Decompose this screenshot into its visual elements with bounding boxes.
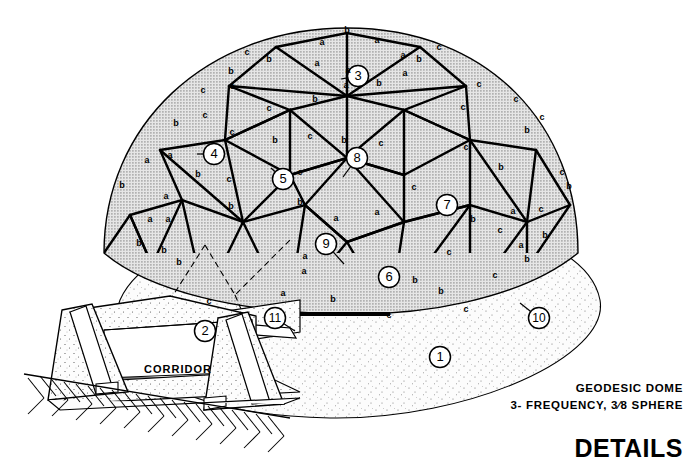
callout-number-4: 4 [210, 146, 217, 161]
strut-label-b: b [312, 94, 318, 104]
strut-label-c: c [538, 204, 543, 214]
strut-label-c: c [559, 167, 564, 177]
strut-label-c: c [297, 167, 302, 177]
callout-number-2: 2 [201, 323, 208, 338]
callout-number-9: 9 [322, 236, 329, 251]
corridor-structure [48, 296, 300, 410]
strut-label-c: c [226, 174, 231, 184]
strut-label-c: c [497, 225, 502, 235]
strut-label-b: b [119, 180, 125, 190]
strut-label-c: c [463, 304, 468, 314]
strut-label-b: b [438, 286, 444, 296]
strut-label-b: b [498, 162, 504, 172]
strut-label-b: b [173, 118, 179, 128]
strut-label-c: c [202, 110, 207, 120]
callout-number-10: 10 [532, 311, 546, 325]
caption-line-2: 3- FREQUENCY, 3⁄8 SPHERE [511, 399, 684, 411]
strut-label-b: b [330, 294, 336, 304]
strut-label-c: c [460, 102, 465, 112]
strut-label-b: b [228, 201, 234, 211]
strut-label-b: b [470, 214, 476, 224]
strut-label-c: c [446, 247, 451, 257]
callout-number-5: 5 [279, 171, 286, 186]
callout-number-3: 3 [354, 68, 361, 83]
page-title: DETAILS [574, 434, 683, 463]
strut-label-b: b [344, 25, 350, 35]
callout-number-11: 11 [269, 311, 282, 325]
caption-line-1: GEODESIC DOME [576, 382, 683, 394]
strut-label-b: b [136, 238, 142, 248]
strut-label-b: b [341, 135, 347, 145]
geodesic-dome-drawing: 1234567891011 bccbaaaabccbaccabcbccbacbc… [0, 0, 693, 476]
strut-label-b: b [524, 254, 530, 264]
strut-label-c: c [229, 81, 234, 91]
strut-label-c: c [386, 310, 391, 320]
strut-label-c: c [378, 138, 383, 148]
corridor-label: CORRIDOR [144, 363, 212, 375]
strut-label-c: c [436, 42, 441, 52]
callout-7[interactable]: 7 [437, 195, 458, 216]
strut-label-b: b [412, 275, 418, 285]
strut-label-b: b [542, 230, 548, 240]
strut-label-c: c [244, 47, 249, 57]
strut-label-b: b [266, 54, 272, 64]
strut-label-b: b [228, 66, 234, 76]
strut-label-c: c [200, 85, 205, 95]
callout-number-7: 7 [443, 197, 450, 212]
callout-1[interactable]: 1 [430, 347, 451, 368]
strut-label-b: b [195, 169, 201, 179]
strut-label-c: c [463, 142, 468, 152]
callout-number-8: 8 [353, 150, 360, 165]
callout-number-1: 1 [436, 349, 443, 364]
strut-label-c: c [266, 103, 271, 113]
strut-label-b: b [376, 78, 382, 88]
strut-label-c: c [513, 94, 518, 104]
callout-6[interactable]: 6 [379, 267, 400, 288]
strut-label-b: b [566, 181, 572, 191]
strut-label-b: b [176, 257, 182, 267]
dome-shell [104, 28, 578, 314]
strut-label-c: c [476, 79, 481, 89]
strut-label-b: b [416, 54, 422, 64]
strut-label-b: b [161, 245, 167, 255]
strut-label-c: c [492, 270, 497, 280]
strut-label-b: b [297, 197, 303, 207]
strut-label-c: c [229, 127, 234, 137]
callout-2[interactable]: 2 [195, 321, 216, 342]
strut-label-c: c [307, 131, 312, 141]
strut-label-c: c [539, 112, 544, 122]
callout-number-6: 6 [385, 269, 392, 284]
strut-label-b: b [524, 125, 530, 135]
strut-label-c: c [411, 182, 416, 192]
strut-label-b: b [272, 135, 278, 145]
strut-label-c: c [206, 296, 211, 306]
